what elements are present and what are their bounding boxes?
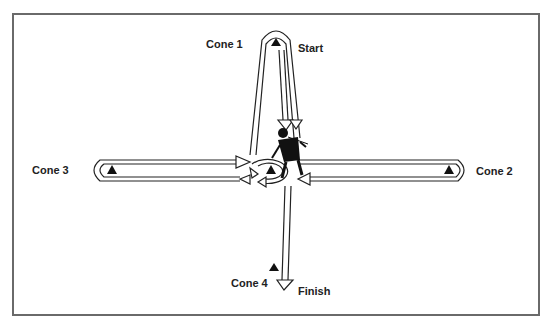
path-to-cone3	[94, 156, 250, 184]
drill-course-diagram	[0, 0, 554, 331]
cone3-icon	[107, 165, 117, 174]
cone2-icon	[444, 165, 454, 174]
cone3-label: Cone 3	[32, 164, 69, 176]
center-cone-icon	[266, 165, 276, 174]
player-figure-icon	[272, 128, 308, 178]
cone2-label: Cone 2	[476, 165, 513, 177]
cone4-label: Cone 4	[231, 277, 268, 289]
path-to-finish	[277, 186, 293, 290]
cone4-icon	[269, 263, 279, 271]
path-to-cone1	[250, 31, 302, 155]
cone1-label: Cone 1	[206, 38, 243, 50]
start-label: Start	[298, 42, 323, 54]
path-to-cone2	[298, 160, 464, 185]
finish-label: Finish	[298, 285, 330, 297]
